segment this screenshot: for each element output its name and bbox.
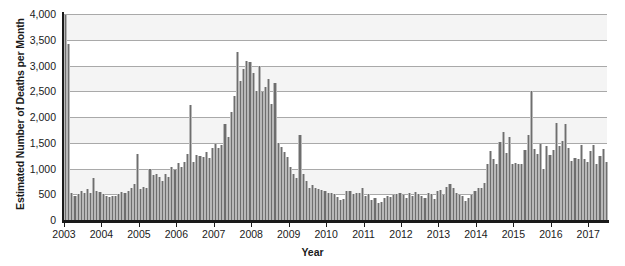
y-tick-label: 3,500	[30, 35, 56, 45]
x-tick-label: 2004	[90, 228, 113, 240]
chart-figure: Estimated Number of Deaths per Month 050…	[0, 0, 625, 266]
y-tick-label: 500	[38, 189, 56, 199]
x-tick-label: 2011	[352, 228, 375, 240]
x-tick-label: 2014	[464, 228, 487, 240]
x-tick-label: 2016	[539, 228, 562, 240]
x-tick-mark	[251, 222, 252, 227]
x-tick-label: 2015	[502, 228, 525, 240]
x-tick-mark	[64, 222, 65, 227]
bar	[605, 162, 608, 220]
x-tick-mark	[101, 222, 102, 227]
x-tick-mark	[438, 222, 439, 227]
y-tick-label: 2,000	[30, 112, 56, 122]
x-tick-mark	[139, 222, 140, 227]
x-tick-mark	[364, 222, 365, 227]
y-tick-label: 3,000	[30, 61, 56, 71]
x-tick-mark	[513, 222, 514, 227]
plot-area	[64, 14, 607, 220]
x-tick-mark	[401, 222, 402, 227]
x-tick-mark	[289, 222, 290, 227]
y-tick-label: 2,500	[30, 86, 56, 96]
x-axis-title: Year	[0, 246, 625, 258]
x-tick-label: 2013	[427, 228, 450, 240]
y-tick-label: 1,500	[30, 138, 56, 148]
y-tick-label: 1,000	[30, 164, 56, 174]
x-tick-mark	[476, 222, 477, 227]
y-tick-label: 4,000	[30, 9, 56, 19]
x-tick-label: 2006	[165, 228, 188, 240]
x-tick-label: 2010	[314, 228, 337, 240]
x-tick-label: 2012	[389, 228, 412, 240]
x-tick-mark	[214, 222, 215, 227]
x-tick-label: 2009	[277, 228, 300, 240]
x-tick-label: 2008	[240, 228, 263, 240]
x-tick-label: 2005	[127, 228, 150, 240]
x-axis-ticks: 2003200420052006200720082009201020112012…	[0, 222, 625, 244]
x-tick-label: 2003	[52, 228, 75, 240]
x-tick-mark	[551, 222, 552, 227]
x-tick-label: 2007	[202, 228, 225, 240]
bar-series	[64, 14, 607, 220]
x-tick-mark	[588, 222, 589, 227]
x-tick-mark	[326, 222, 327, 227]
x-tick-mark	[176, 222, 177, 227]
x-tick-label: 2017	[577, 228, 600, 240]
